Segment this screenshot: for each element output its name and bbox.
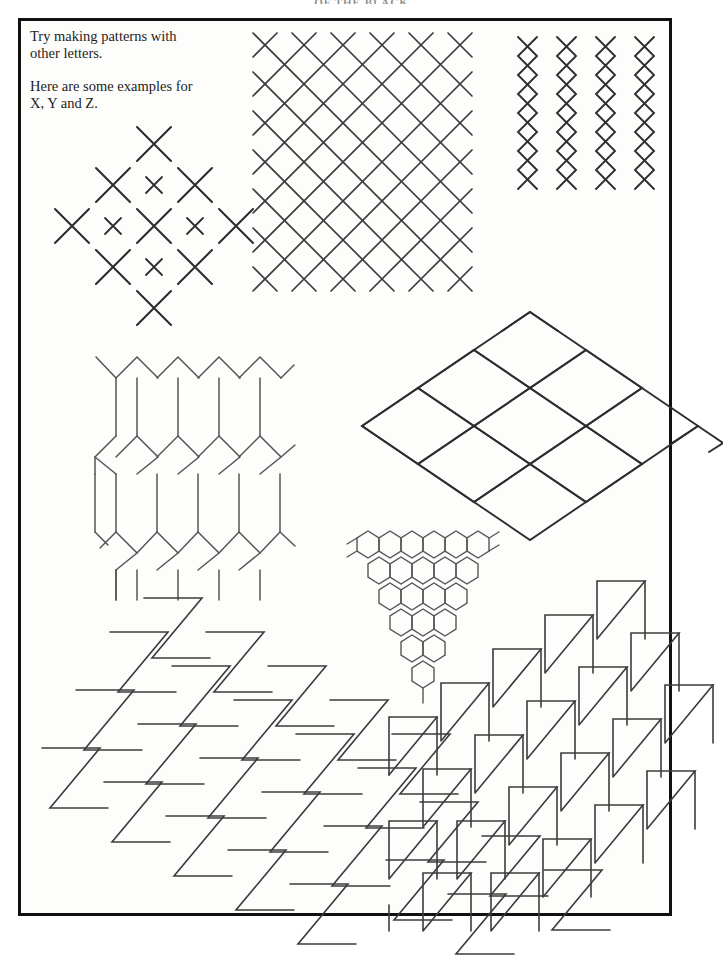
instruction-text-primary: Try making patterns with other letters. bbox=[30, 28, 176, 62]
instruction-text-secondary: Here are some examples for X, Y and Z. bbox=[30, 78, 193, 112]
page-frame-border bbox=[18, 18, 672, 916]
page-canvas: OF THE BLACK Try making patterns with ot… bbox=[0, 0, 723, 960]
running-header: OF THE BLACK bbox=[0, 0, 723, 4]
